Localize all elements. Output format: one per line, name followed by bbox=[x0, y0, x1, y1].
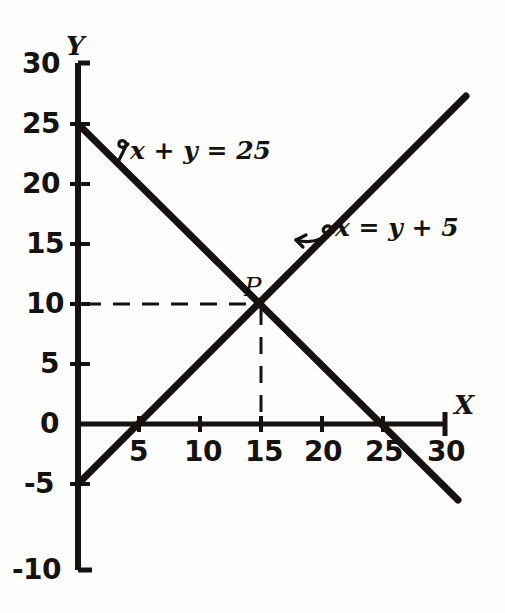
leader-line-x-plus-y bbox=[117, 141, 128, 164]
x-tick-label-15: 15 bbox=[245, 438, 283, 466]
y-axis-label: Y bbox=[66, 33, 85, 59]
y-tick-label-minus10: -10 bbox=[12, 556, 61, 584]
y-tick-label-30: 30 bbox=[22, 50, 60, 78]
graph-canvas bbox=[0, 0, 505, 613]
x-tick-label-25: 25 bbox=[365, 438, 403, 466]
y-tick-label-10: 10 bbox=[26, 290, 64, 318]
y-tick-label-20: 20 bbox=[22, 170, 60, 198]
x-tick-label-10: 10 bbox=[184, 438, 222, 466]
x-axis-label: X bbox=[454, 392, 474, 418]
y-tick-label-5: 5 bbox=[40, 350, 59, 378]
x-tick-label-5: 5 bbox=[129, 438, 148, 466]
intersection-point-label: P bbox=[244, 274, 262, 300]
x-tick-label-30: 30 bbox=[427, 438, 465, 466]
y-tick-label-minus5: -5 bbox=[24, 470, 54, 498]
y-tick-label-25: 25 bbox=[22, 110, 60, 138]
y-tick-label-15: 15 bbox=[26, 230, 64, 258]
y-tick-label-0: 0 bbox=[40, 410, 59, 438]
graph-figure: 30 25 20 15 10 5 0 -5 -10 5 10 15 20 25 … bbox=[0, 0, 505, 613]
equation-label-line2: x = y + 5 bbox=[335, 215, 459, 240]
x-tick-label-20: 20 bbox=[304, 438, 342, 466]
equation-label-line1: x + y = 25 bbox=[130, 138, 271, 163]
